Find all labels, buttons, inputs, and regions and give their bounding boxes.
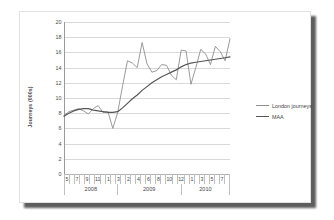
x-tick-31 [225, 174, 230, 184]
x-axis-month-ticks: 5791113246810121357 [64, 174, 230, 184]
legend-line-swatch-icon [256, 116, 269, 117]
series-line-maa [64, 57, 230, 116]
chart-page: Journeys (000s) 02468101214161820 579111… [0, 0, 334, 220]
y-tick-label-20: 20 [56, 19, 65, 25]
year-label-2010: 2010 [182, 184, 230, 195]
y-tick-label-18: 18 [56, 34, 65, 40]
chart-legend: London journeysMAA [256, 103, 312, 125]
series-line-london-journeys [64, 39, 230, 129]
y-axis-title: Journeys (000s) [27, 59, 33, 155]
legend-label: MAA [272, 114, 284, 120]
x-axis-year-labels: 200820092010 [64, 184, 230, 195]
x-tick-22: 12 [178, 174, 185, 184]
legend-item-maa[interactable]: MAA [256, 114, 312, 120]
y-tick-label-14: 14 [56, 65, 65, 71]
year-label-2008: 2008 [64, 184, 118, 195]
x-tick-20: 10 [166, 174, 173, 184]
legend-label: London journeys [272, 103, 312, 109]
series-lines [64, 22, 230, 180]
chart-panel: Journeys (000s) 02468101214161820 579111… [19, 11, 311, 203]
y-tick-label-16: 16 [56, 49, 65, 55]
year-label-2009: 2009 [118, 184, 182, 195]
legend-line-swatch-icon [256, 105, 269, 106]
plot-area-wrapper: Journeys (000s) 02468101214161820 579111… [20, 12, 310, 202]
y-tick-label-12: 12 [56, 80, 65, 86]
legend-item-london-journeys[interactable]: London journeys [256, 103, 312, 109]
y-tick-label-10: 10 [56, 95, 65, 101]
